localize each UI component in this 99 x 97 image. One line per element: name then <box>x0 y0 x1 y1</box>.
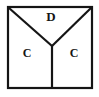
diagram-container: D C C <box>0 0 99 97</box>
square-y-partition-diagram: D C C <box>0 0 99 97</box>
label-d-top-region: D <box>46 9 55 24</box>
label-c-right-region: C <box>70 46 79 60</box>
label-c-left-region: C <box>23 46 32 60</box>
